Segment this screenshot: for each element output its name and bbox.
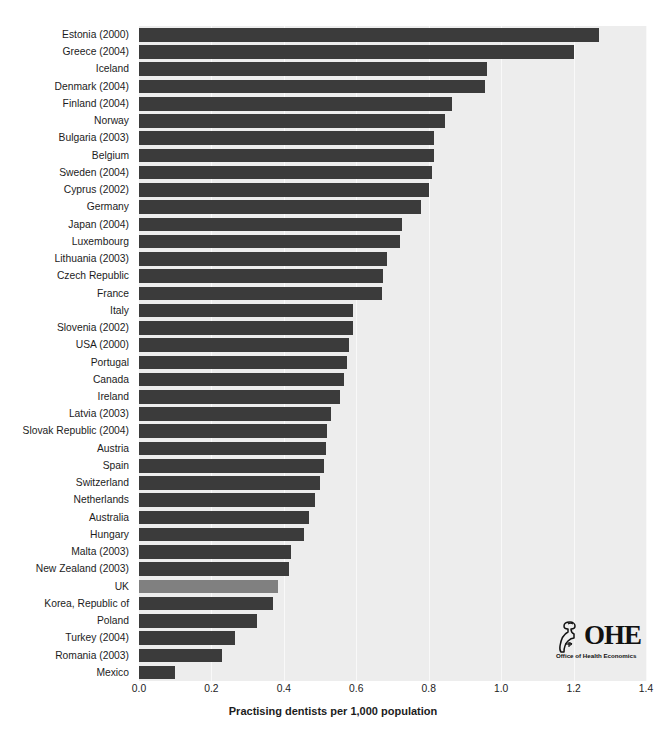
bar-row <box>139 267 646 284</box>
bar <box>139 356 347 370</box>
x-axis-title: Practising dentists per 1,000 population <box>0 705 666 717</box>
bar <box>139 459 324 473</box>
category-label: Malta (2003) <box>0 543 134 560</box>
category-label: Australia <box>0 509 134 526</box>
category-label: Austria <box>0 440 134 457</box>
bar <box>139 45 574 59</box>
bar <box>139 631 235 645</box>
bar-row <box>139 60 646 77</box>
category-label: Lithuania (2003) <box>0 250 134 267</box>
category-label: Spain <box>0 457 134 474</box>
bar-row <box>139 26 646 43</box>
bar <box>139 528 304 542</box>
ohe-tagline: Office of Health Economics <box>556 652 636 659</box>
bar <box>139 235 400 249</box>
bar-row <box>139 181 646 198</box>
category-label: Switzerland <box>0 474 134 491</box>
bar <box>139 149 434 163</box>
category-label: France <box>0 285 134 302</box>
category-label: Hungary <box>0 526 134 543</box>
category-label: Portugal <box>0 354 134 371</box>
bar-row <box>139 164 646 181</box>
category-label: Denmark (2004) <box>0 78 134 95</box>
category-label: Netherlands <box>0 491 134 508</box>
ohe-logo: OHE Office of Health Economics <box>556 620 656 666</box>
bar-row <box>139 354 646 371</box>
bar <box>139 97 452 111</box>
bar-row <box>139 491 646 508</box>
bar-row <box>139 405 646 422</box>
category-label: Belgium <box>0 147 134 164</box>
bar <box>139 390 340 404</box>
bar-row <box>139 422 646 439</box>
bar-row <box>139 216 646 233</box>
gridline <box>646 26 647 681</box>
category-label: USA (2000) <box>0 336 134 353</box>
category-label: Canada <box>0 371 134 388</box>
category-label: Norway <box>0 112 134 129</box>
bar <box>139 424 327 438</box>
bar-row <box>139 509 646 526</box>
category-label: Estonia (2000) <box>0 26 134 43</box>
bar-row <box>139 526 646 543</box>
bar <box>139 166 432 180</box>
category-axis-labels: Estonia (2000)Greece (2004)IcelandDenmar… <box>0 26 134 681</box>
bar <box>139 545 291 559</box>
bar <box>139 614 257 628</box>
x-tick-label: 0.6 <box>349 683 363 694</box>
category-label: Greece (2004) <box>0 43 134 60</box>
bar <box>139 407 331 421</box>
bar <box>139 321 353 335</box>
bar <box>139 62 487 76</box>
bar-row <box>139 285 646 302</box>
bar <box>139 183 429 197</box>
category-label: Sweden (2004) <box>0 164 134 181</box>
bar <box>139 80 485 94</box>
bar-rows <box>139 26 646 681</box>
tooth-and-pillar-icon <box>556 620 586 654</box>
bar <box>139 218 402 232</box>
x-tick-label: 1.2 <box>566 683 580 694</box>
bar <box>139 666 175 680</box>
category-label: Bulgaria (2003) <box>0 129 134 146</box>
bar-row <box>139 457 646 474</box>
bar <box>139 562 289 576</box>
bar <box>139 28 599 42</box>
category-label: Slovak Republic (2004) <box>0 422 134 439</box>
category-label: Korea, Republic of <box>0 595 134 612</box>
category-label: Iceland <box>0 60 134 77</box>
category-label: Ireland <box>0 388 134 405</box>
category-label: Mexico <box>0 664 134 681</box>
bar-row <box>139 43 646 60</box>
category-label: Germany <box>0 198 134 215</box>
bar <box>139 597 273 611</box>
bar-highlighted <box>139 580 278 594</box>
bar-row <box>139 595 646 612</box>
bar-row <box>139 664 646 681</box>
plot-area <box>139 26 646 681</box>
bar <box>139 649 222 663</box>
bar-row <box>139 578 646 595</box>
bar-row <box>139 198 646 215</box>
category-label: Romania (2003) <box>0 647 134 664</box>
category-label: Luxembourg <box>0 233 134 250</box>
ohe-wordmark: OHE <box>584 622 641 649</box>
category-label: Turkey (2004) <box>0 629 134 646</box>
bar <box>139 287 382 301</box>
bar-row <box>139 388 646 405</box>
category-label: Latvia (2003) <box>0 405 134 422</box>
bar-row <box>139 250 646 267</box>
bar-row <box>139 560 646 577</box>
bar <box>139 114 445 128</box>
bar <box>139 338 349 352</box>
bar-row <box>139 129 646 146</box>
x-tick-label: 0.2 <box>204 683 218 694</box>
x-tick-label: 1.0 <box>494 683 508 694</box>
bar <box>139 493 315 507</box>
bar-row <box>139 336 646 353</box>
bar <box>139 269 383 283</box>
bar-row <box>139 233 646 250</box>
dentists-bar-chart: Estonia (2000)Greece (2004)IcelandDenmar… <box>0 0 666 744</box>
bar-row <box>139 112 646 129</box>
bar <box>139 200 421 214</box>
